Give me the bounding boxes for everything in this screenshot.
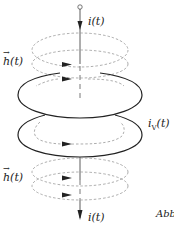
solid-ring-lower <box>18 115 142 157</box>
field-arg-bottom: (t) <box>10 171 23 184</box>
caption-fragment: Abb <box>156 209 174 219</box>
label-current-top: i(t) <box>88 16 105 27</box>
terminal-node <box>78 5 82 9</box>
field-vector-symbol: h <box>3 56 10 67</box>
current-arrow-top-icon <box>78 21 83 30</box>
ring-arrow-lower-icon <box>62 142 72 147</box>
current-arrow-bottom-icon <box>78 210 83 220</box>
field-arg: (t) <box>10 55 23 68</box>
label-field-top: h(t) <box>3 56 23 67</box>
magnetic-field-diagram <box>0 0 174 227</box>
field-arrow-lower2-icon <box>62 193 72 198</box>
label-field-bottom: h(t) <box>3 172 23 183</box>
label-current-bottom: i(t) <box>88 212 105 223</box>
field-arrow-icon <box>62 62 72 67</box>
field-vector-symbol-bottom: h <box>3 172 10 183</box>
field-arrow-lower1-icon <box>62 176 72 181</box>
induced-current-arg: (t) <box>157 117 170 130</box>
label-induced-current: iV(t) <box>148 118 170 132</box>
